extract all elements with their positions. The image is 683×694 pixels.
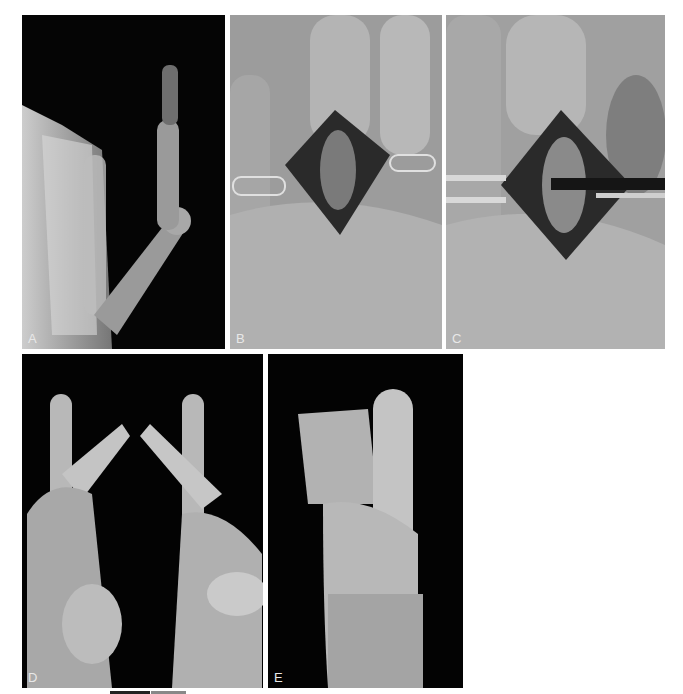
panel-label-a: A — [28, 332, 37, 345]
panel-label-e: E — [274, 671, 283, 684]
panel-b-surgery: B — [230, 15, 442, 349]
xray-image — [22, 15, 225, 349]
fist-photo — [268, 354, 463, 688]
panel-d-hands: D — [22, 354, 263, 688]
surgical-photo-instrument — [446, 15, 665, 349]
panel-label-d: D — [28, 671, 37, 684]
panel-label-b: B — [236, 332, 245, 345]
panel-a-xray: A — [22, 15, 225, 349]
panel-label-c: C — [452, 332, 461, 345]
hands-photo — [22, 354, 263, 688]
surgical-photo — [230, 15, 442, 349]
panel-e-fist: E — [268, 354, 463, 688]
panel-c-surgery: C — [446, 15, 665, 349]
